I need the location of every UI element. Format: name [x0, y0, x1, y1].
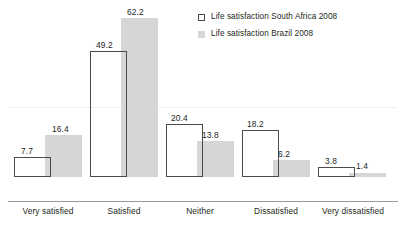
legend: Life satisfaction South Africa 2008 Life… [198, 10, 398, 44]
x-axis-label-satisfied: Satisfied [84, 206, 164, 217]
legend-swatch-filled-icon [198, 31, 205, 38]
bar-value-south-africa-satisfied: 49.2 [96, 40, 113, 50]
legend-item-brazil[interactable]: Life satisfaction Brazil 2008 [198, 27, 398, 41]
legend-swatch-outline-icon [198, 14, 205, 21]
x-axis-label-very-satisfied: Very satisfied [8, 206, 88, 217]
bar-value-brazil-dissatisfied: 6.2 [278, 149, 290, 159]
bar-group-satisfied: 49.2 62.2 [90, 0, 158, 177]
bar-value-brazil-very-satisfied: 16.4 [52, 124, 69, 134]
bar-south-africa-satisfied[interactable] [90, 51, 127, 177]
bar-value-south-africa-very-satisfied: 7.7 [21, 146, 33, 156]
bar-south-africa-very-satisfied[interactable] [14, 157, 51, 177]
legend-label-south-africa: Life satisfaction South Africa 2008 [211, 12, 337, 22]
bar-south-africa-dissatisfied[interactable] [242, 130, 279, 177]
x-axis-line [8, 201, 398, 202]
bar-chart: 7.7 16.4 49.2 62.2 20.4 13.8 18.2 6.2 [0, 0, 401, 226]
legend-label-brazil: Life satisfaction Brazil 2008 [211, 29, 313, 39]
bar-value-south-africa-very-dissatisfied: 3.8 [325, 156, 337, 166]
legend-item-south-africa[interactable]: Life satisfaction South Africa 2008 [198, 10, 398, 24]
bar-value-brazil-very-dissatisfied: 1.4 [356, 161, 368, 171]
x-axis-label-dissatisfied: Dissatisfied [236, 206, 316, 217]
bar-group-very-satisfied: 7.7 16.4 [14, 0, 82, 177]
bar-value-south-africa-neither: 20.4 [171, 113, 188, 123]
bar-value-brazil-neither: 13.8 [202, 130, 219, 140]
x-axis-label-very-dissatisfied: Very dissatisfied [310, 206, 396, 217]
x-axis-label-neither: Neither [160, 206, 240, 217]
bar-value-south-africa-dissatisfied: 18.2 [247, 119, 264, 129]
bar-value-brazil-satisfied: 62.2 [127, 7, 144, 17]
bar-south-africa-neither[interactable] [166, 124, 203, 177]
bar-south-africa-very-dissatisfied[interactable] [318, 167, 355, 177]
